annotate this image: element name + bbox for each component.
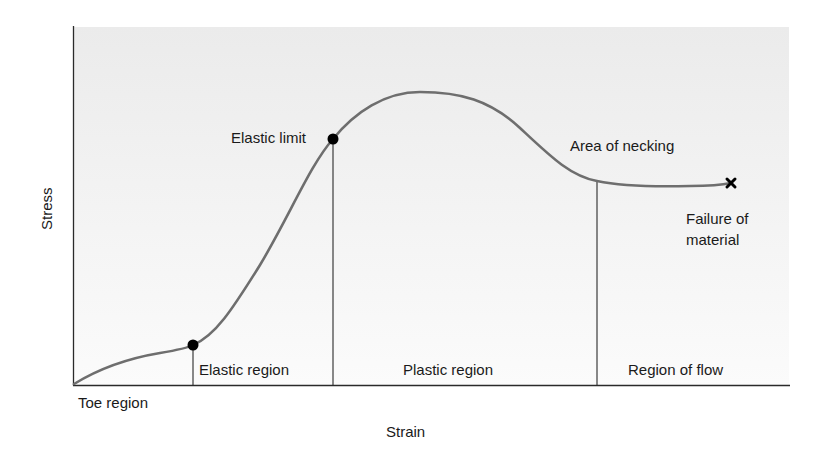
y-axis-label: Stress xyxy=(38,187,55,230)
elastic-region-point-marker xyxy=(188,340,199,351)
failure-label-line2: material xyxy=(686,231,739,250)
x-axis-label: Strain xyxy=(386,423,425,442)
plastic-region-label: Plastic region xyxy=(403,361,493,380)
elastic-region-label: Elastic region xyxy=(199,361,289,380)
elastic-limit-marker xyxy=(328,134,339,145)
area-of-necking-label: Area of necking xyxy=(570,137,674,156)
toe-region-label: Toe region xyxy=(78,394,148,413)
region-of-flow-label: Region of flow xyxy=(628,361,723,380)
plot-background xyxy=(74,27,789,385)
failure-label-line1: Failure of xyxy=(686,210,749,229)
elastic-limit-label: Elastic limit xyxy=(231,129,306,148)
